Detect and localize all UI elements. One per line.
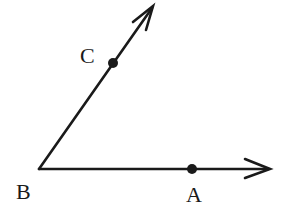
- angle-svg: C B A: [0, 0, 295, 218]
- label-b: B: [16, 179, 31, 204]
- point-a: [187, 164, 197, 174]
- ray-bc-line: [39, 8, 152, 169]
- point-c: [108, 58, 118, 68]
- label-c: C: [80, 43, 95, 68]
- ray-bc-arrowhead-icon: [133, 6, 153, 30]
- label-a: A: [186, 182, 202, 207]
- angle-diagram: C B A: [0, 0, 295, 218]
